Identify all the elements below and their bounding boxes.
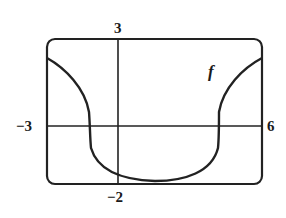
y-min-label: −2	[107, 190, 123, 205]
function-label-f: f	[208, 63, 214, 80]
graph-window	[0, 0, 286, 218]
x-min-label: −3	[16, 119, 32, 134]
y-max-label: 3	[114, 21, 122, 36]
curve-f	[47, 58, 262, 181]
viewing-window-frame	[47, 39, 262, 184]
x-max-label: 6	[267, 119, 275, 134]
